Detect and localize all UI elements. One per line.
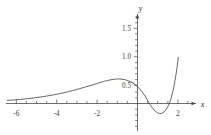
y-axis-arrowhead	[136, 14, 140, 19]
chart-figure: -6 -4 -2 2 0.5 1.0 1.5 x y	[0, 0, 211, 135]
x-axis-arrowhead	[192, 102, 197, 106]
x-axis-label: x	[200, 100, 205, 109]
y-tick-label-1: 1.0	[122, 53, 131, 61]
x-tick-label-1: -4	[54, 110, 60, 118]
y-axis-label: y	[138, 4, 143, 13]
plot-canvas: -6 -4 -2 2 0.5 1.0 1.5 x y	[0, 0, 211, 135]
x-tick-label-2: -2	[94, 110, 100, 118]
y-tick-label-2: 1.5	[122, 25, 131, 33]
y-tick-label-0: 0.5	[122, 82, 131, 90]
x-tick-label-3: 2	[176, 110, 180, 118]
y-major-ticks	[134, 28, 138, 85]
x-tick-label-0: -6	[13, 110, 19, 118]
x-major-ticks	[16, 100, 178, 104]
function-curve	[7, 57, 178, 113]
